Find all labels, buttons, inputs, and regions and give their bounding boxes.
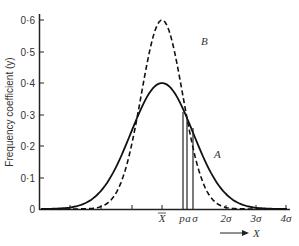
svg-text:2σ: 2σ — [221, 212, 233, 224]
svg-text:0·2: 0·2 — [21, 141, 36, 152]
svg-text:p: p — [178, 212, 185, 224]
svg-text:0·1: 0·1 — [21, 173, 36, 184]
y-ticks — [40, 20, 44, 178]
curve-a — [41, 83, 287, 209]
svg-text:3σ: 3σ — [250, 212, 263, 224]
svg-text:0·5: 0·5 — [21, 47, 36, 58]
x-direction-arrow: X — [220, 227, 261, 239]
curve-b — [41, 20, 287, 209]
chart-canvas: Frequency coefficient (y) 0·6 0·5 0·4 0·… — [0, 0, 299, 246]
svg-text:X: X — [158, 212, 167, 224]
svg-text:0: 0 — [29, 204, 35, 215]
svg-text:a: a — [185, 212, 191, 224]
svg-text:0·6: 0·6 — [21, 15, 36, 26]
svg-text:σ: σ — [192, 212, 198, 224]
normal-distribution-chart: Frequency coefficient (y) 0·6 0·5 0·4 0·… — [0, 0, 299, 246]
curve-b-label: B — [201, 35, 208, 47]
svg-text:0·3: 0·3 — [21, 110, 36, 121]
x-tick-labels: X p a σ 2σ 3σ 4σ — [158, 212, 292, 224]
y-axis-label: Frequency coefficient (y) — [4, 57, 15, 166]
y-tick-labels: 0·6 0·5 0·4 0·3 0·2 0·1 0 — [21, 15, 36, 215]
svg-text:4σ: 4σ — [281, 212, 293, 224]
svg-text:0·4: 0·4 — [21, 78, 36, 89]
curve-a-label: A — [213, 148, 221, 160]
svg-text:X: X — [252, 227, 261, 239]
